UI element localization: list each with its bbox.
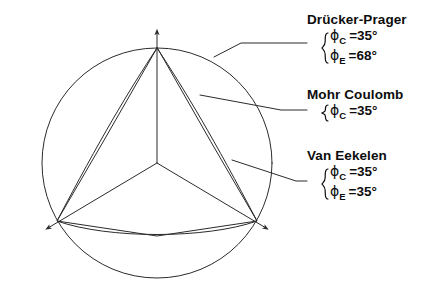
axis-ray-bottom-right <box>157 163 266 228</box>
annotation-title-van-eekelen: Van Eekelen <box>307 148 387 163</box>
phi-value: =35° <box>349 164 377 179</box>
annotation-drucker-prager: Drücker-Prager ϕC=35° ϕE=68° <box>307 12 407 67</box>
phi-value: =35° <box>349 28 377 43</box>
param-row: ϕC=35° <box>330 164 377 184</box>
phi-subscript: E <box>339 54 345 65</box>
brace-icon <box>321 168 329 200</box>
leader-mohr-coulomb <box>200 95 307 110</box>
phi-symbol: ϕ <box>330 27 339 43</box>
phi-symbol: ϕ <box>330 47 339 63</box>
phi-symbol: ϕ <box>330 102 339 118</box>
annotation-params-mohr-coulomb: ϕC=35° <box>307 103 403 123</box>
param-row: ϕE=68° <box>330 48 377 68</box>
phi-symbol: ϕ <box>330 183 339 199</box>
param-rows: ϕC=35° ϕE=35° <box>330 164 377 203</box>
annotation-van-eekelen: Van Eekelen ϕC=35° ϕE=35° <box>307 148 387 203</box>
phi-value: =35° <box>349 103 377 118</box>
brace-icon <box>321 104 329 122</box>
annotation-title-mohr-coulomb: Mohr Coulomb <box>307 87 403 102</box>
param-row: ϕE=35° <box>330 184 377 204</box>
param-rows: ϕC=35° ϕE=68° <box>330 28 377 67</box>
param-row: ϕC=35° <box>330 28 377 48</box>
annotation-params-van-eekelen: ϕC=35° ϕE=35° <box>307 164 387 203</box>
leader-van-eekelen <box>232 160 307 181</box>
param-row: ϕC=35° <box>330 103 377 123</box>
figure-root: Drücker-Prager ϕC=35° ϕE=68° Mohr Coulom… <box>0 0 437 292</box>
phi-value: =68° <box>349 48 377 63</box>
brace-icon <box>321 32 329 64</box>
phi-symbol: ϕ <box>330 163 339 179</box>
annotation-params-drucker-prager: ϕC=35° ϕE=68° <box>307 28 407 67</box>
axis-ray-bottom-left <box>48 163 157 228</box>
phi-subscript: E <box>339 190 345 201</box>
param-rows: ϕC=35° <box>330 103 377 123</box>
phi-subscript: C <box>339 35 346 46</box>
phi-subscript: C <box>339 171 346 182</box>
annotation-title-drucker-prager: Drücker-Prager <box>307 12 407 27</box>
phi-subscript: C <box>339 110 346 121</box>
annotation-mohr-coulomb: Mohr Coulomb ϕC=35° <box>307 87 403 123</box>
leader-drucker-prager <box>214 43 307 57</box>
phi-value: =35° <box>349 184 377 199</box>
